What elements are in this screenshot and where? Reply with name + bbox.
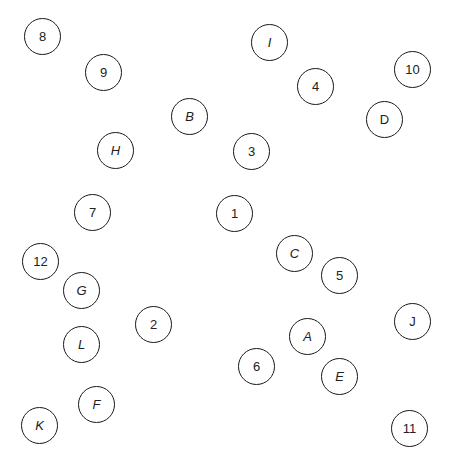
- circle-node-a[interactable]: A: [289, 318, 326, 355]
- circle-node-9[interactable]: 9: [85, 54, 122, 91]
- circle-node-b[interactable]: B: [171, 98, 208, 135]
- circle-label: C: [290, 247, 299, 260]
- circle-label: 12: [33, 255, 47, 268]
- circle-label: I: [268, 36, 272, 49]
- circle-label: 1: [231, 207, 238, 220]
- circle-node-f[interactable]: F: [78, 386, 115, 423]
- circle-label: L: [78, 338, 85, 351]
- circle-label: 10: [405, 63, 419, 76]
- circle-label: A: [303, 330, 312, 343]
- circle-node-j[interactable]: J: [394, 303, 431, 340]
- circle-node-4[interactable]: 4: [297, 68, 334, 105]
- circle-label: B: [185, 110, 194, 123]
- circle-label: 8: [39, 30, 46, 43]
- circle-node-3[interactable]: 3: [233, 133, 270, 170]
- circle-node-e[interactable]: E: [321, 358, 358, 395]
- trail-making-canvas: 8I9104BDH371C125G2JAL6EFK11: [0, 0, 454, 469]
- circle-node-1[interactable]: 1: [216, 195, 253, 232]
- circle-label: H: [111, 144, 120, 157]
- circle-node-11[interactable]: 11: [391, 410, 428, 447]
- circle-node-l[interactable]: L: [63, 326, 100, 363]
- circle-label: 5: [336, 269, 343, 282]
- circle-node-12[interactable]: 12: [22, 243, 59, 280]
- circle-node-7[interactable]: 7: [74, 194, 111, 231]
- circle-node-10[interactable]: 10: [394, 51, 431, 88]
- circle-node-6[interactable]: 6: [238, 348, 275, 385]
- circle-label: 6: [253, 360, 260, 373]
- circle-label: G: [76, 284, 86, 297]
- circle-node-i[interactable]: I: [251, 24, 288, 61]
- circle-node-2[interactable]: 2: [135, 306, 172, 343]
- circle-node-h[interactable]: H: [97, 132, 134, 169]
- circle-node-g[interactable]: G: [63, 272, 100, 309]
- circle-label: K: [35, 419, 44, 432]
- circle-node-8[interactable]: 8: [24, 18, 61, 55]
- circle-label: F: [93, 398, 101, 411]
- circle-label: 9: [100, 66, 107, 79]
- circle-label: 4: [312, 80, 319, 93]
- circle-label: 3: [248, 145, 255, 158]
- circle-label: 2: [150, 318, 157, 331]
- circle-label: J: [409, 315, 416, 328]
- circle-node-c[interactable]: C: [276, 235, 313, 272]
- circle-label: 11: [403, 422, 417, 435]
- circle-node-d[interactable]: D: [366, 101, 403, 138]
- circle-label: E: [335, 370, 344, 383]
- circle-node-5[interactable]: 5: [321, 257, 358, 294]
- circle-label: D: [380, 113, 389, 126]
- circle-node-k[interactable]: K: [21, 407, 58, 444]
- circle-label: 7: [89, 206, 96, 219]
